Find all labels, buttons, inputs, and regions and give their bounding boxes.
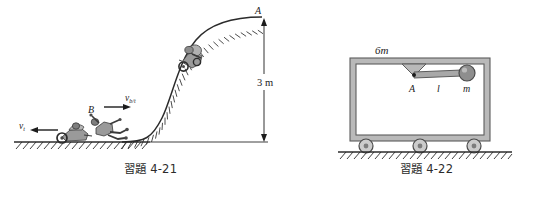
height-dimension-label: 3 m bbox=[257, 77, 273, 88]
figure-4-21-illustration: B vt vb/t A 3 m bbox=[0, 0, 290, 160]
figure-4-21-caption: 習題 4-21 bbox=[124, 160, 177, 176]
pendulum-bob bbox=[459, 65, 475, 81]
motorcycle-rider-climbing bbox=[179, 45, 202, 71]
point-b-label: B bbox=[88, 104, 94, 115]
cart-mass-label: 6m bbox=[375, 44, 389, 56]
velocity-truck-arrow bbox=[30, 127, 58, 133]
velocity-bike-relative-arrow bbox=[104, 104, 131, 110]
bob-mass-label: m bbox=[463, 83, 470, 94]
figure-4-22-illustration: 6m A l m bbox=[290, 0, 537, 160]
rod-length-label: l bbox=[437, 83, 440, 94]
hill-curve bbox=[122, 17, 262, 142]
pivot-point-a bbox=[412, 73, 416, 77]
figure-sheet: B vt vb/t A 3 m 習題 4-21 bbox=[0, 0, 537, 197]
point-a-label: A bbox=[254, 5, 262, 16]
velocity-bike-relative-label: vb/t bbox=[125, 93, 136, 104]
velocity-truck-label: vt bbox=[19, 121, 25, 132]
rider-b-tumbling bbox=[89, 113, 128, 139]
figure-4-22-caption: 習題 4-22 bbox=[400, 160, 453, 176]
fallen-motorcycle bbox=[57, 123, 92, 143]
pendulum-rod bbox=[414, 70, 462, 78]
pivot-a-label: A bbox=[408, 83, 416, 94]
